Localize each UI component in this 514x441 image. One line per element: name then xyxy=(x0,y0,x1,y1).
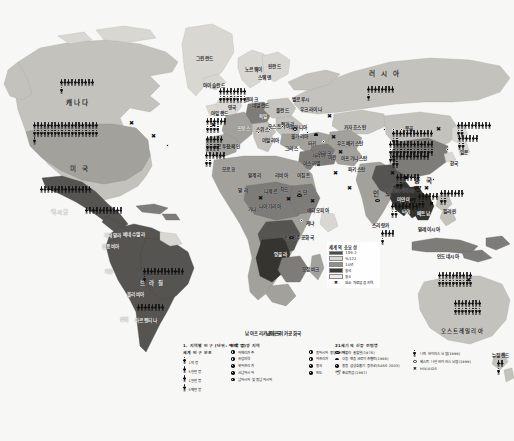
bird-marker-icon: 🕊 xyxy=(335,370,342,375)
disease-legend-label: 웨스트 나일 바이러스 뇌염(1999) xyxy=(420,359,471,364)
hunger-legend-label: 10년 xyxy=(345,262,353,267)
population-scale-label: 1억 명 xyxy=(188,360,198,365)
hunger-legend-label: 159.2 xyxy=(345,251,357,255)
bullet-icon xyxy=(309,371,316,375)
world-map-page: .oce{fill:#f7f7f6;} .l1{fill:#d8d7d2;str… xyxy=(0,0,514,441)
bullet-icon xyxy=(231,378,238,382)
cap-marker-icon xyxy=(335,358,342,361)
hunger-legend-label: %122 xyxy=(345,257,356,261)
hunger-legend-rows: 159.2%12210년충국충4✖요소 자료없음 지역 xyxy=(329,251,378,286)
region-legend-label: 유럽지역 xyxy=(238,356,251,361)
hunger-legend-swatch xyxy=(329,274,343,279)
hunger-legend-row: 10년 xyxy=(329,262,378,267)
person-icon xyxy=(183,384,186,391)
population-scale-item: 5백만 명 xyxy=(183,384,225,392)
hunger-legend-row: %122 xyxy=(329,256,378,261)
hunger-legend-swatch xyxy=(329,251,343,256)
person-icon xyxy=(183,366,186,373)
ellipse-marker-icon xyxy=(335,351,342,354)
hunger-legend-swatch xyxy=(329,268,343,273)
region-legend-label: 인도 xyxy=(316,370,322,375)
hunger-legend-swatch xyxy=(329,256,343,261)
hunger-level-legend: 세계의 충요성 159.2%12210년충국충4✖요소 자료없음 지역 xyxy=(327,242,380,288)
region-legend-label: 서남아시아 xyxy=(238,370,254,375)
population-scale-label: 5천만 명 xyxy=(188,369,201,374)
region-legend-item: 북아프리카 xyxy=(231,363,309,368)
bullet-icon xyxy=(309,364,316,368)
x-marker-icon: ✖ xyxy=(329,280,343,285)
population-legend-title: 1. 지역별 인구 (단위: 백만 명) xyxy=(183,342,225,348)
person-icon xyxy=(183,357,186,364)
disease-legend-label: 니파 바이러스 뇌염(1999) xyxy=(420,351,460,356)
hunger-legend-label: 요소 자료없음 지역 xyxy=(345,280,373,285)
ring-marker-icon xyxy=(413,360,420,364)
legend-column-population: 1. 지역별 인구 (단위: 백만 명) 세계 인구 분포 1억 명5천만 명1… xyxy=(183,342,225,393)
hunger-legend-label: 충4 xyxy=(345,274,351,279)
hunger-legend-row: 충국 xyxy=(329,268,378,273)
bullet-icon xyxy=(231,371,238,375)
bullet-icon xyxy=(309,357,316,361)
disease-legend-label: 신종 변종 크로이츠펠트(1996) xyxy=(342,356,389,361)
person-icon xyxy=(413,350,420,358)
bullet-icon xyxy=(231,364,238,368)
hunger-legend-row: 충4 xyxy=(329,274,378,279)
disease-legend-item: 🕊조류독감(1997) xyxy=(335,370,413,375)
bottom-legend: 남아프리카공화국 1. 지역별 인구 (단위: 백만 명) 세계 인구 분포 1… xyxy=(183,336,483,398)
disease-legend-label: 중증 급성호흡기 증후군(SARS 2003) xyxy=(342,363,400,368)
disease-items-right: 니파 바이러스 뇌염(1999)웨스트 나일 바이러스 뇌염(1999)✖HIV… xyxy=(413,350,483,378)
region-legend-label: 아프리카 xyxy=(316,356,329,361)
bullet-icon xyxy=(309,350,316,354)
region-legend-label: 아메리카주 xyxy=(238,350,254,355)
region-legend-item: 유럽지역 xyxy=(231,356,309,361)
population-scale-label: 1천만 명 xyxy=(188,378,201,383)
disease-legend-item: 니파 바이러스 뇌염(1999) xyxy=(413,350,483,358)
population-scale-item: 1억 명 xyxy=(183,357,225,365)
region-legend-label: 북아프리카 xyxy=(238,363,254,368)
legend-column-diseases: 21세기의 신종 전염병 에볼라 출혈열(1976)신종 변종 크로이츠펠트(1… xyxy=(335,342,485,377)
hunger-legend-title: 세계의 충요성 xyxy=(329,244,378,250)
disease-legend-item: ✖HIV/AIDS xyxy=(413,366,483,371)
disease-legend-item: 에볼라 출혈열(1976) xyxy=(335,350,413,355)
population-scale-items: 1억 명5천만 명1천만 명5백만 명 xyxy=(183,357,225,392)
region-legend-item: 서남아시아 xyxy=(231,370,309,375)
region-legend-label: 중국 xyxy=(316,363,322,368)
disease-items-left: 에볼라 출혈열(1976)신종 변종 크로이츠펠트(1996)중증 급성호흡기 … xyxy=(335,350,413,378)
region-legend-item: 남아시아 및 동남아시아 xyxy=(231,377,309,382)
hunger-legend-row: ✖요소 자료없음 지역 xyxy=(329,280,378,285)
bullet-icon xyxy=(231,350,238,354)
hunger-legend-label: 충국 xyxy=(345,268,351,273)
region-legend-item: 아메리카주 xyxy=(231,350,309,355)
population-legend-subtitle: 세계 인구 분포 xyxy=(183,349,225,355)
disease-legend-label: 에볼라 출혈열(1976) xyxy=(342,350,375,355)
regions-items-left: 아메리카주유럽지역북아프리카서남아시아남아시아 및 동남아시아 xyxy=(231,350,309,384)
disease-legend-item: 신종 변종 크로이츠펠트(1996) xyxy=(335,356,413,361)
bullet-icon xyxy=(231,357,238,361)
person-icon xyxy=(183,375,186,382)
bottom-legend-caption: 남아프리카공화국 xyxy=(245,330,281,336)
bullet-icon xyxy=(335,364,342,368)
x-marker-icon: ✖ xyxy=(413,366,420,371)
hunger-legend-row: 159.2 xyxy=(329,251,378,256)
population-scale-label: 5백만 명 xyxy=(188,387,201,392)
disease-legend-label: HIV/AIDS xyxy=(420,367,437,371)
population-scale-item: 1천만 명 xyxy=(183,375,225,383)
disease-legend-item: 웨스트 나일 바이러스 뇌염(1999) xyxy=(413,359,483,364)
hunger-legend-swatch xyxy=(329,262,343,267)
disease-legend-label: 조류독감(1997) xyxy=(342,370,367,375)
diseases-legend-title: 21세기의 신종 전염병 xyxy=(335,342,485,348)
population-scale-item: 5천만 명 xyxy=(183,366,225,374)
region-legend-label: 남아시아 및 동남아시아 xyxy=(238,377,272,382)
disease-legend-item: 중증 급성호흡기 증후군(SARS 2003) xyxy=(335,363,413,368)
